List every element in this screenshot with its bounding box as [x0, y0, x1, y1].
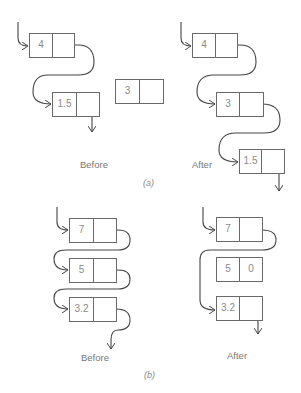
node-value: 3: [216, 92, 240, 116]
pointer-cell: [239, 217, 263, 242]
pointer-cell: [76, 92, 100, 117]
node-value: 5: [216, 257, 240, 281]
node-value: 4: [192, 33, 216, 57]
pointer-cell: [239, 296, 263, 321]
head-pointer-arrow: [203, 207, 215, 230]
pointer-cell: [139, 79, 164, 104]
node-value: 3: [115, 79, 140, 103]
node-value: 4: [29, 33, 53, 57]
pointer-cell: [239, 92, 264, 117]
head-pointer-arrow: [57, 207, 68, 230]
pointer-cell: [52, 33, 75, 58]
linked-list-diagram: 4 1.5 3 Before 4 3 1.5 After (a) 7 5: [0, 0, 301, 393]
pointer-cell: [93, 297, 117, 322]
node-next-value: 0: [239, 257, 263, 281]
pointer-cell: [261, 149, 285, 174]
head-pointer-arrow: [181, 22, 191, 46]
figure-label-b: (b): [144, 370, 155, 380]
node-value: 7: [216, 217, 240, 241]
pointer-cell: [93, 218, 117, 243]
head-pointer-arrow: [18, 22, 28, 46]
node-value: 1.5: [52, 92, 77, 116]
node-value: 1.5: [239, 149, 262, 173]
caption-after: After: [227, 350, 247, 361]
node-value: 3.2: [216, 296, 240, 320]
caption-before: Before: [80, 159, 108, 170]
caption-before: Before: [81, 352, 109, 363]
node-value: 7: [69, 218, 94, 242]
pointer-cell: [215, 33, 238, 58]
caption-after: After: [192, 159, 212, 170]
pointer-cell: [93, 258, 117, 283]
node-value: 3.2: [69, 297, 94, 321]
connector-arrows: [0, 0, 301, 393]
node-value: 5: [69, 258, 94, 282]
figure-label-a: (a): [143, 178, 154, 188]
